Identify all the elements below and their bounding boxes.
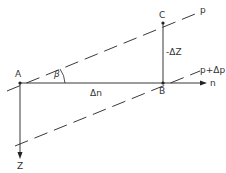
- geometry-diagram: A B C p p+Δp n Z β Δn -ΔZ: [0, 0, 226, 173]
- label-c: C: [159, 10, 165, 20]
- n-arrow-icon: [200, 81, 207, 86]
- label-b: B: [159, 86, 165, 96]
- label-dn: Δn: [90, 88, 102, 98]
- label-n: n: [210, 78, 216, 88]
- diagram-canvas: A B C p p+Δp n Z β Δn -ΔZ: [0, 0, 226, 173]
- label-p-plus-dp: p+Δp: [200, 65, 225, 75]
- point-b: [161, 81, 164, 84]
- label-beta: β: [53, 69, 60, 79]
- z-arrow-icon: [18, 152, 23, 159]
- point-c: [161, 21, 164, 24]
- point-a: [18, 81, 21, 84]
- line-p-plus-dp: [15, 71, 200, 146]
- label-dz: -ΔZ: [166, 47, 182, 57]
- label-z: Z: [17, 161, 23, 171]
- angle-arc: [60, 69, 65, 83]
- label-a: A: [15, 69, 22, 79]
- label-p: p: [200, 5, 206, 15]
